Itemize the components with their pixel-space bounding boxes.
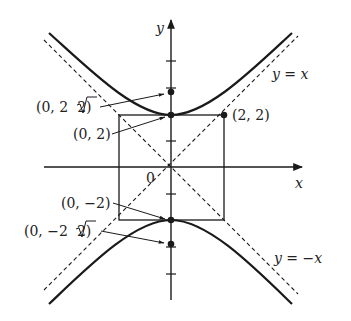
y-axis-label: y xyxy=(155,20,165,36)
point-vertex-upper xyxy=(168,112,175,119)
label-focus-upper: (0, 22) xyxy=(36,97,97,115)
x-axis-label: x xyxy=(295,175,303,191)
leader-arrow-vertex-lower xyxy=(113,203,165,219)
label-vertex-lower: (0, −2) xyxy=(61,195,110,211)
leader-arrow-vertex-upper xyxy=(112,117,165,134)
asymptote-label-y-equals-x: y = x xyxy=(271,66,309,82)
svg-text:(0, −22): (0, −22) xyxy=(24,223,91,239)
label-corner-2-2: (2, 2) xyxy=(232,107,270,123)
origin-label: 0 xyxy=(146,170,155,186)
point-vertex-lower xyxy=(168,217,175,224)
label-vertex-upper: (0, 2) xyxy=(73,126,111,142)
leader-arrow-focus-upper xyxy=(100,94,164,107)
hyperbola-diagram: y x 0 y = x y = −x (0, 22) (0, 2) (2, 2)… xyxy=(0,0,351,321)
point-focus-lower xyxy=(168,241,175,248)
point-corner-2-2 xyxy=(221,112,228,119)
asymptote-label-y-equals-neg-x: y = −x xyxy=(273,250,322,266)
label-focus-lower: (0, −22) xyxy=(24,221,96,239)
point-focus-upper xyxy=(168,89,175,96)
